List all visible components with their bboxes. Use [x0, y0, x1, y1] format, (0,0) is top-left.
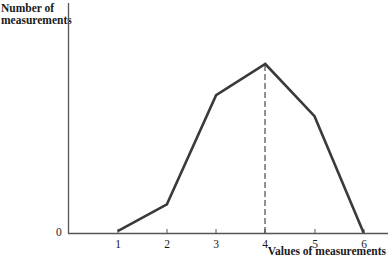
frequency-polygon-line [118, 64, 364, 233]
chart-plot-area [0, 0, 390, 261]
x-axis-ticks [118, 229, 364, 234]
